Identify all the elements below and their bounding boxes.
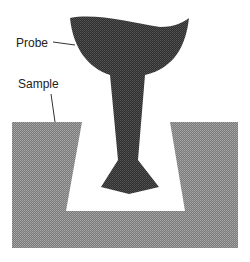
probe-body — [70, 17, 189, 194]
sample-label: Sample — [18, 78, 59, 90]
sample-leader-line — [51, 94, 55, 122]
probe-leader-line — [53, 42, 75, 45]
probe-label: Probe — [16, 37, 48, 49]
